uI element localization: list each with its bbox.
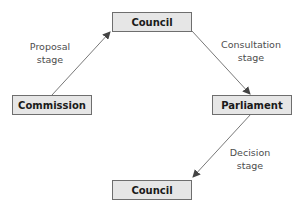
label-line: stage — [213, 51, 289, 64]
label-line: Decision — [222, 146, 278, 159]
label-proposal-stage: Proposal stage — [22, 40, 78, 66]
label-line: Consultation — [213, 38, 289, 51]
label-line: Proposal — [22, 40, 78, 53]
node-council-top: Council — [112, 12, 192, 32]
label-line: stage — [22, 53, 78, 66]
label-consultation-stage: Consultation stage — [213, 38, 289, 64]
node-parliament: Parliament — [212, 95, 292, 115]
node-council-bottom: Council — [112, 180, 192, 200]
label-decision-stage: Decision stage — [222, 146, 278, 172]
node-commission: Commission — [12, 95, 92, 115]
label-line: stage — [222, 159, 278, 172]
